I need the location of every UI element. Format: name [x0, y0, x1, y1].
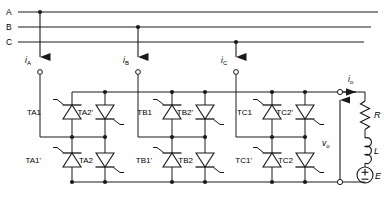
phase-b-terminal: [136, 70, 141, 75]
thyristor-gate-lead: [214, 120, 225, 125]
thyristor-tb1prime-label: TB1': [136, 156, 153, 165]
inductor-symbol: [365, 138, 371, 164]
thyristor-gate-lead: [53, 148, 64, 153]
dc-source-label: E: [375, 171, 382, 181]
junction-dot: [70, 180, 74, 184]
phase-a-current-label: iA: [25, 55, 31, 66]
junction-dot: [70, 135, 74, 139]
thyristor-body: [96, 105, 114, 119]
thyristor-gate-lead: [214, 168, 225, 173]
junction-dot: [234, 40, 238, 44]
resistor-label: R: [374, 110, 381, 120]
thyristor-tb2: [196, 153, 225, 173]
thyristor-body: [96, 153, 114, 167]
thyristor-body: [196, 105, 214, 119]
output-terminals: [337, 89, 342, 184]
junction-dot: [203, 180, 207, 184]
thyristor-gate-lead: [253, 148, 264, 153]
thyristor-body: [296, 153, 314, 167]
junction-dot: [203, 135, 207, 139]
thyristor-tc2prime: [296, 105, 325, 125]
inductor-label: L: [374, 146, 379, 156]
junction-dot: [170, 180, 174, 184]
phase-a-terminal: [38, 70, 43, 75]
phase-c-tap: [234, 40, 272, 137]
thyristor-ta2prime: [96, 105, 125, 125]
thyristor-ta2prime-label: TA2': [77, 108, 93, 117]
thyristor-gate-lead: [114, 168, 125, 173]
thyristor-ta1prime-label: TA1': [25, 156, 41, 165]
resistor-symbol: [361, 101, 370, 130]
thyristor-ta2: [96, 153, 125, 173]
circuit-diagram-canvas: A B C iA iB iC: [0, 0, 384, 205]
thyristor-gate-lead: [114, 120, 125, 125]
junction-dot: [170, 135, 174, 139]
supply-line-group: [18, 12, 378, 42]
thyristor-tb2prime: [196, 105, 225, 125]
thyristor-tc1-label: TC1: [237, 108, 253, 117]
thyristor-tc2prime-label: TC2': [276, 108, 293, 117]
output-current-label: io: [348, 74, 354, 85]
junction-dot: [270, 90, 274, 94]
thyristor-tb1prime: [153, 148, 182, 168]
thyristor-gate-lead: [314, 168, 325, 173]
circuit-schematic: A B C iA iB iC: [0, 0, 384, 205]
output-voltage-label: vo: [322, 138, 330, 149]
thyristor-tb2prime-label: TB2': [177, 108, 194, 117]
thyristor-ta2-label: TA2: [79, 156, 94, 165]
phase-c-terminal: [234, 70, 239, 75]
phase-c-current-label: iC: [221, 55, 228, 66]
thyristor-gate-lead: [153, 100, 164, 105]
thyristor-tc2: [296, 153, 325, 173]
supply-line-a-label: A: [6, 7, 12, 17]
thyristor-gate-lead: [153, 148, 164, 153]
junction-dot: [170, 90, 174, 94]
junction-dot: [103, 135, 107, 139]
thyristor-tb1-label: TB1: [137, 108, 152, 117]
output-terminal-negative: [337, 179, 342, 184]
supply-line-b-label: B: [6, 22, 12, 32]
junction-dot: [270, 180, 274, 184]
junction-dot: [103, 180, 107, 184]
junction-dot: [38, 10, 42, 14]
junction-dot: [270, 135, 274, 139]
thyristor-gate-lead: [53, 100, 64, 105]
junction-dot: [103, 90, 107, 94]
junction-dot: [303, 90, 307, 94]
thyristor-body: [196, 153, 214, 167]
thyristor-tc2-label: TC2: [278, 156, 294, 165]
thyristor-tc1prime-label: TC1': [235, 156, 252, 165]
thyristor-ta1prime: [53, 148, 82, 168]
thyristor-gate-lead: [253, 100, 264, 105]
thyristor-ta1-label: TA1: [27, 108, 42, 117]
thyristor-tb2-label: TB2: [178, 156, 193, 165]
junction-dot: [303, 180, 307, 184]
supply-line-c-label: C: [6, 37, 12, 47]
junction-dot: [136, 25, 140, 29]
load-branch: [343, 92, 373, 183]
output-terminal-positive: [337, 89, 342, 94]
thyristor-gate-lead: [314, 120, 325, 125]
junction-dot: [303, 135, 307, 139]
thyristor-body: [296, 105, 314, 119]
junction-dot: [203, 90, 207, 94]
phase-b-current-label: iB: [123, 55, 129, 66]
